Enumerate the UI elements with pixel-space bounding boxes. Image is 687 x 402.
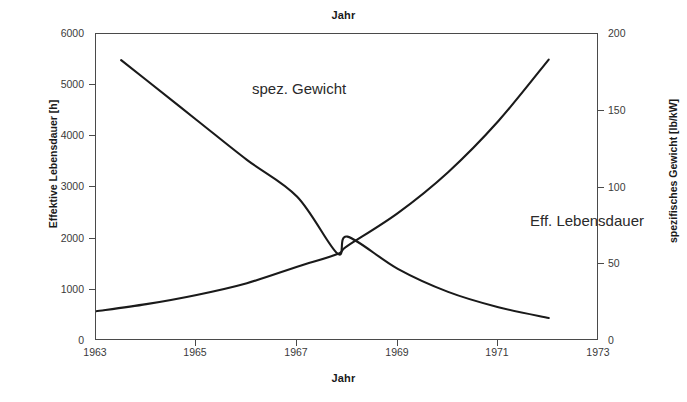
series-line-spez-gewicht: [121, 60, 549, 318]
curve-layer: [96, 34, 599, 341]
y-left-tick-label: 4000: [24, 130, 84, 140]
x-tick-label: 1963: [60, 346, 130, 358]
y-left-tick-label: 6000: [24, 28, 84, 38]
series-label-eff-lebensdauer: Eff. Lebensdauer: [530, 212, 644, 229]
y-right-tick-label: 50: [608, 258, 668, 268]
x-tick-label: 1965: [160, 346, 230, 358]
x-tick-label: 1969: [362, 346, 432, 358]
y-right-tick-label: 100: [608, 182, 668, 192]
series-label-spez-gewicht: spez. Gewicht: [252, 80, 346, 97]
series-line-eff-lebensdauer: [96, 60, 549, 312]
y-right-tick-label: 150: [608, 105, 668, 115]
y-axis-right-title: spezifisches Gewicht [lb/kW]: [667, 41, 679, 301]
x-tick-label: 1971: [462, 346, 532, 358]
chart-title-top: Jahr: [0, 9, 687, 21]
chart-figure: Jahr Effektive Lebensdauer [h] spezifisc…: [0, 0, 687, 402]
y-right-tick-label: 200: [608, 28, 668, 38]
x-tick-label: 1967: [261, 346, 331, 358]
plot-area: spez. Gewicht Eff. Lebensdauer: [95, 33, 598, 340]
y-left-tick-label: 0: [24, 335, 84, 345]
x-tick-label: 1973: [563, 346, 633, 358]
y-left-tick-label: 3000: [24, 181, 84, 191]
y-left-tick-label: 5000: [24, 79, 84, 89]
y-left-tick-label: 2000: [24, 233, 84, 243]
y-left-tick-label: 1000: [24, 284, 84, 294]
y-right-tick-label: 0: [608, 335, 668, 345]
x-axis-title: Jahr: [0, 372, 687, 384]
